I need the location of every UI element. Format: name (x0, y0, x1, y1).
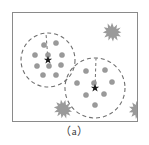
data-point (109, 79, 114, 84)
data-point (32, 52, 37, 57)
figure-root: （a） (0, 0, 149, 145)
data-point (46, 63, 51, 68)
data-point (34, 63, 39, 68)
data-point (40, 72, 45, 77)
data-point (59, 52, 64, 57)
data-point (101, 91, 106, 96)
data-point (53, 40, 58, 45)
outlier-burst-icon (127, 99, 138, 121)
data-point (53, 72, 58, 77)
data-point (83, 92, 88, 97)
data-point (83, 68, 88, 73)
outlier-burst-icon (103, 23, 122, 42)
data-point (74, 80, 79, 85)
cluster-group-1 (21, 33, 75, 87)
outlier-burst-icon (52, 98, 75, 121)
data-point (102, 67, 107, 72)
data-point (41, 42, 46, 47)
data-point (91, 80, 96, 85)
plot-canvas (13, 13, 138, 122)
cluster-center-star-1 (44, 56, 52, 64)
figure-caption: （a） (0, 124, 149, 138)
data-point (92, 102, 97, 107)
data-point (58, 62, 63, 67)
plot-frame (12, 12, 138, 122)
